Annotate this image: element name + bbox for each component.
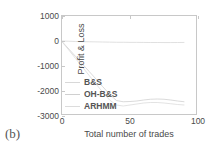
legend-item-label: OH-B&S [84, 90, 118, 99]
x-tick-mark [198, 16, 199, 19]
x-tick-label: 0 [60, 117, 65, 126]
y-tick-label: -3000 [37, 112, 59, 121]
legend-item: ARHMM [65, 100, 145, 112]
x-tick-label: 50 [125, 117, 134, 126]
legend-color-swatch [65, 106, 80, 107]
figure-panel: 10000-1000-2000-3000 050100 B&S OH-B&S A… [0, 0, 212, 151]
x-tick-mark [130, 16, 131, 19]
y-tick-label: -1000 [37, 62, 59, 71]
panel-caption: (b) [5, 126, 20, 141]
y-tick-mark [62, 66, 65, 67]
x-tick-label: 100 [191, 117, 205, 126]
y-tick-label: 0 [54, 37, 59, 46]
y-axis-title: Profit & Loss [74, 0, 88, 99]
y-tick-label: 1000 [40, 12, 59, 21]
x-tick-mark [62, 16, 63, 19]
y-tick-label: -2000 [37, 87, 59, 96]
y-tick-mark [62, 41, 65, 42]
plot-area: 10000-1000-2000-3000 050100 B&S OH-B&S A… [61, 15, 197, 115]
legend-item-label: ARHMM [84, 102, 117, 111]
x-axis-title: Total number of trades [61, 129, 197, 140]
